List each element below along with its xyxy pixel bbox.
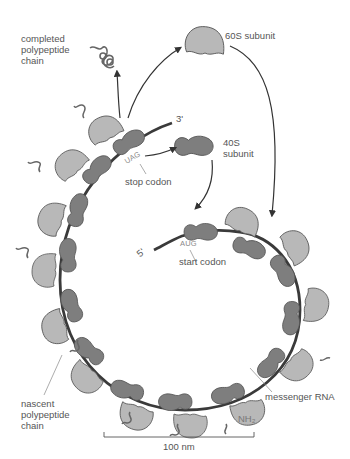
mrna-label: messenger RNA xyxy=(265,391,335,402)
arrow-to-completed-chain xyxy=(117,72,120,118)
completed-chain-label: completed polypeptide chain xyxy=(21,33,70,66)
scale-bar-label: 100 nm xyxy=(163,441,195,452)
start-codon-label: start codon xyxy=(179,256,226,267)
three-prime-label: 3' xyxy=(176,113,183,124)
free-60s-subunit xyxy=(185,27,224,55)
nh2-label: NH₂ xyxy=(238,413,255,424)
nascent-chain-label: nascent polypeptide chain xyxy=(21,398,70,431)
60s-subunit-label: 60S subunit xyxy=(225,30,275,41)
start-codon-sequence: AUG xyxy=(180,239,197,248)
nascent-chain-pointer xyxy=(44,355,62,395)
completed-polypeptide-icon xyxy=(90,47,114,68)
40s-subunit-label: 40S subunit xyxy=(223,137,254,159)
stop-codon-pointer xyxy=(140,164,146,174)
arrow-60s-to-start xyxy=(230,46,275,215)
stop-codon-label: stop codon xyxy=(125,176,171,187)
free-40s-subunit xyxy=(175,136,214,155)
arrow-to-40s xyxy=(145,148,175,156)
arrow-40s-to-start xyxy=(196,160,212,208)
arrow-to-60s xyxy=(128,48,180,118)
